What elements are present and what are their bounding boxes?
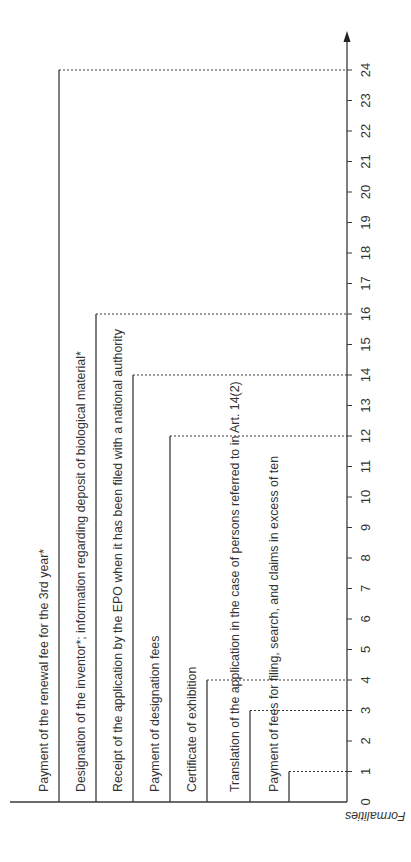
axis-tick-label: 14	[358, 368, 373, 382]
axis-tick-label: 0	[358, 798, 373, 805]
axis-tick-label: 16	[358, 307, 373, 321]
formality-label: Receipt of the application by the EPO wh…	[111, 328, 125, 792]
axis-tick-label: 17	[358, 276, 373, 290]
axis-tick-label: 5	[358, 646, 373, 653]
axis-tick-label: 1	[358, 768, 373, 775]
formality-items: Payment of the renewal fee for the 3rd y…	[22, 70, 347, 802]
formality-label: Payment of the renewal fee for the 3rd y…	[37, 549, 51, 792]
formality-item: Payment of fees for filing, search, and …	[267, 456, 347, 802]
formality-item: Translation of the application in the ca…	[228, 381, 347, 802]
axis-tick-label: 22	[358, 124, 373, 138]
axis-tick-label: 9	[358, 524, 373, 531]
axis-tick-label: 13	[358, 398, 373, 412]
axis-tick-label: 15	[358, 337, 373, 351]
axis-tick-label: 23	[358, 93, 373, 107]
axis-tick-label: 19	[358, 215, 373, 229]
axis-tick-label: 12	[358, 429, 373, 443]
axis-tick-label: 3	[358, 707, 373, 714]
formality-label: Payment of designation fees	[148, 636, 162, 792]
axis-tick-label: 10	[358, 490, 373, 504]
axis-tick-label: 24	[358, 63, 373, 77]
axis-title: Formalities	[345, 809, 406, 823]
formality-item: Payment of designation fees	[148, 436, 347, 802]
formality-label: Designation of the inventor*; informatio…	[74, 351, 88, 792]
axis-tick-label: 6	[358, 615, 373, 622]
axis-tick-label: 7	[358, 585, 373, 592]
formality-item: Certificate of exhibition	[185, 667, 347, 802]
formality-label: Payment of fees for filing, search, and …	[267, 456, 281, 792]
axis-tick-label: 4	[358, 676, 373, 683]
axis-tick-label: 21	[358, 154, 373, 168]
formality-label: Translation of the application in the ca…	[228, 381, 242, 792]
axis-tick-label: 11	[358, 460, 373, 474]
axis-tick-label: 8	[358, 554, 373, 561]
axis-tick-label: 2	[358, 737, 373, 744]
axis-tick-label: 18	[358, 246, 373, 260]
formality-label: Certificate of exhibition	[185, 667, 199, 792]
formalities-timeline-diagram: 0123456789101112131415161718192021222324…	[0, 0, 411, 862]
axis-tick-label: 20	[358, 185, 373, 199]
axis-arrow-icon	[344, 31, 351, 42]
